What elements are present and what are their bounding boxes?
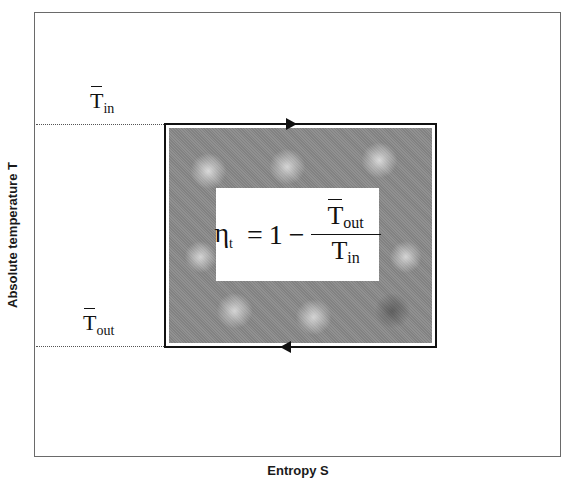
eta-subscript: t [229,236,233,251]
numerator-subscript: out [343,214,363,231]
efficiency-formula: ηt = 1 − Tout Tin [214,202,380,267]
numerator: Tout [327,202,363,232]
arrow-right-icon [286,118,297,130]
t-out-subscript: out [96,323,114,338]
arrow-left-icon [280,341,291,353]
eta-symbol: η [214,217,229,248]
eta-term: ηt [214,217,233,252]
numerator-symbol: T [327,202,343,229]
minus-sign: − [289,219,305,251]
t-in-subscript: in [103,101,114,116]
one: 1 [269,219,283,251]
x-axis-label: Entropy S [267,463,328,478]
efficiency-formula-box: ηt = 1 − Tout Tin [216,188,379,281]
t-in-label: Tin [90,90,114,116]
denominator-symbol: T [331,237,347,264]
t-out-guide-line [36,346,164,347]
t-in-symbol: T [90,90,103,112]
t-out-symbol: T [83,312,96,334]
y-axis-label: Absolute temperature T [5,162,20,308]
t-in-guide-line [36,124,164,125]
denominator: Tin [331,237,359,267]
t-out-label: Tout [83,312,114,338]
temperature-ratio: Tout Tin [311,202,381,267]
equals-sign: = [247,219,263,251]
denominator-subscript: in [347,249,359,266]
